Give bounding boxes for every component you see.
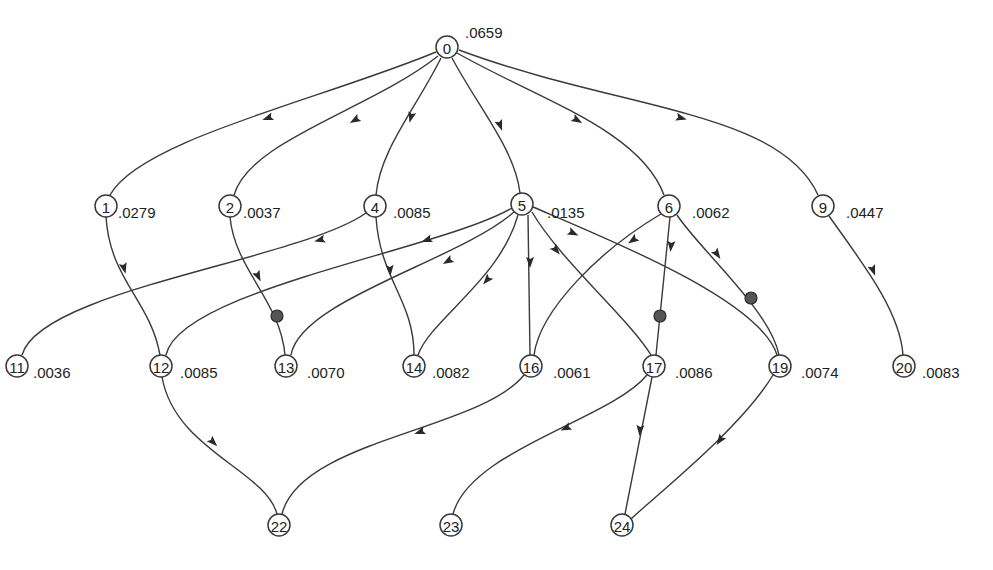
node-weight-label: .0062: [692, 204, 730, 221]
edge-0-to-6: [457, 53, 664, 195]
arrowhead-icon: [252, 270, 264, 283]
edge-17-to-24: [625, 377, 652, 514]
node-13[interactable]: 13: [275, 355, 297, 377]
node-weight-label: .0070: [307, 364, 345, 381]
filled-marker-icon: [271, 310, 283, 322]
edge-17-to-23: [453, 375, 647, 514]
node-22[interactable]: 22: [268, 514, 290, 536]
edge-0-to-9: [459, 50, 818, 195]
node-weight-label: .0659: [465, 24, 503, 41]
node-20[interactable]: 20: [893, 355, 915, 377]
edge-1-to-12: [106, 217, 160, 355]
edge-0-to-2: [234, 56, 438, 195]
node-23[interactable]: 23: [440, 514, 462, 536]
node-weight-label: .0447: [846, 204, 884, 221]
arrowhead-icon: [868, 264, 879, 277]
node-5[interactable]: 5: [511, 193, 533, 215]
node-label: 17: [646, 359, 663, 376]
filled-marker-icon: [654, 310, 666, 322]
node-weight-label: .0086: [675, 364, 713, 381]
arrowhead-icon: [526, 257, 534, 268]
arrowhead-icon: [713, 434, 726, 448]
node-label: 11: [9, 359, 25, 376]
node-label: 0: [443, 40, 451, 57]
arrowhead-icon: [675, 113, 688, 124]
edge-0-to-4: [376, 58, 441, 195]
edge-6-to-17: [656, 217, 670, 355]
node-weight-label: .0074: [801, 364, 839, 381]
markers-layer: [271, 292, 757, 322]
node-label: 13: [278, 359, 295, 376]
edge-5-to-17: [532, 212, 651, 355]
node-weight-label: .0135: [547, 204, 585, 221]
edge-4-to-11: [22, 213, 366, 355]
node-label: 5: [518, 197, 526, 214]
node-label: 24: [614, 518, 631, 535]
arrowhead-icon: [567, 227, 580, 239]
node-label: 14: [406, 359, 423, 376]
arrowhead-icon: [711, 248, 724, 262]
arrowheads-layer: [119, 111, 879, 449]
edges-layer: [22, 50, 903, 520]
node-weight-label: .0083: [922, 364, 960, 381]
filled-marker-icon: [745, 292, 757, 304]
arrowhead-icon: [635, 425, 644, 437]
arrowhead-icon: [420, 235, 433, 246]
node-9[interactable]: 9: [812, 195, 834, 217]
node-label: 12: [153, 359, 170, 376]
arrowhead-icon: [386, 265, 395, 277]
node-14[interactable]: 14: [403, 355, 425, 377]
node-weight-label: .0036: [33, 364, 71, 381]
node-label: 6: [665, 199, 673, 216]
arrowhead-icon: [119, 262, 130, 275]
edge-9-to-20: [829, 216, 903, 355]
arrowhead-icon: [495, 119, 506, 132]
node-17[interactable]: 17: [643, 355, 665, 377]
edge-12-to-22: [162, 377, 277, 514]
node-16[interactable]: 16: [520, 355, 542, 377]
node-label: 4: [371, 199, 379, 216]
node-19[interactable]: 19: [769, 355, 791, 377]
node-2[interactable]: 2: [219, 195, 241, 217]
node-label: 2: [226, 199, 234, 216]
node-24[interactable]: 24: [611, 514, 633, 536]
arrowhead-icon: [348, 114, 362, 126]
node-label: 1: [102, 199, 110, 216]
node-12[interactable]: 12: [150, 355, 172, 377]
arrowhead-icon: [480, 274, 493, 288]
edge-0-to-5: [452, 58, 520, 193]
edge-16-to-22: [282, 375, 524, 514]
node-label: 23: [443, 518, 460, 535]
node-weight-label: .0279: [118, 204, 156, 221]
node-weight-label: .0037: [243, 204, 281, 221]
edge-5-to-19: [533, 207, 777, 355]
node-6[interactable]: 6: [658, 195, 680, 217]
edge-5-to-16: [528, 215, 530, 355]
edge-5-to-14: [418, 215, 518, 355]
node-label: 19: [772, 359, 789, 376]
node-4[interactable]: 4: [364, 195, 386, 217]
edge-5-to-12: [166, 208, 512, 355]
node-0[interactable]: 0: [436, 36, 458, 58]
edge-19-to-24: [630, 375, 773, 520]
node-11[interactable]: 11: [6, 355, 28, 377]
directed-graph: 0.06591.02792.00374.00855.01356.00629.04…: [0, 0, 993, 570]
arrowhead-icon: [441, 255, 455, 267]
edge-0-to-1: [110, 52, 436, 195]
node-label: 9: [819, 199, 827, 216]
nodes-layer: 0.06591.02792.00374.00855.01356.00629.04…: [6, 24, 960, 537]
node-1[interactable]: 1: [95, 195, 117, 217]
node-label: 20: [896, 359, 913, 376]
node-label: 16: [523, 359, 540, 376]
node-weight-label: .0061: [553, 364, 591, 381]
arrowhead-icon: [571, 114, 585, 126]
arrowhead-icon: [261, 113, 274, 124]
edge-4-to-14: [376, 217, 414, 355]
node-label: 22: [271, 518, 288, 535]
node-weight-label: .0082: [432, 364, 470, 381]
node-weight-label: .0085: [180, 364, 218, 381]
node-weight-label: .0085: [393, 204, 431, 221]
